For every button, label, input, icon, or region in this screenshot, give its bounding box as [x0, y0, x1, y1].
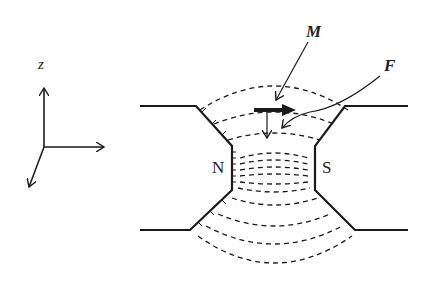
north-pole-label: N — [212, 158, 224, 178]
m-pointer-line — [276, 42, 308, 100]
south-pole-label: S — [322, 158, 331, 178]
coordinate-axes-icon — [29, 88, 104, 187]
magnetization-arrow-icon — [254, 104, 296, 116]
magnet-gap-diagram: z N S M F — [0, 0, 430, 286]
z-axis-label: z — [38, 56, 44, 73]
pole-pieces — [140, 106, 408, 230]
f-pointer-line — [282, 76, 380, 128]
force-label: F — [384, 56, 395, 76]
diagram-svg — [0, 0, 430, 286]
magnetization-label: M — [306, 22, 321, 42]
